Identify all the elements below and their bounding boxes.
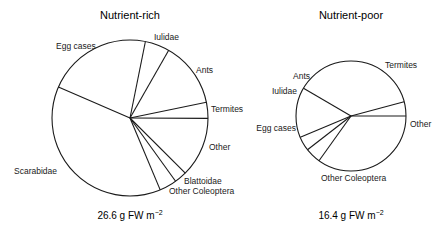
slice-label: Iulidae	[154, 32, 179, 42]
chart-title: Nutrient-poor	[319, 9, 384, 21]
chart-nutrient-poor: Nutrient-poor TermitesAntsIulidaeEgg cas…	[256, 9, 431, 221]
chart-nutrient-rich: Nutrient-rich Egg casesIulidaeAntsTermit…	[14, 9, 243, 221]
slice-label: Termites	[211, 104, 243, 114]
slice-label: Blattoidae	[184, 176, 222, 186]
slice-label: Other Coleoptera	[321, 173, 386, 183]
slice-label: Other	[410, 119, 431, 129]
slice-label: Ants	[293, 71, 310, 81]
pie-chart-figure: Nutrient-rich Egg casesIulidaeAntsTermit…	[0, 0, 443, 236]
slice-label: Ants	[196, 65, 213, 75]
total-biomass-label: 26.6 g FW m−2	[97, 209, 162, 221]
pie-slices	[296, 61, 406, 171]
pie-slices	[52, 40, 208, 196]
slice-label: Other	[209, 142, 230, 152]
total-biomass-label: 16.4 g FW m−2	[318, 209, 383, 221]
chart-title: Nutrient-rich	[100, 9, 160, 21]
slice-label: Iulidae	[272, 86, 297, 96]
slice-label: Termites	[385, 60, 417, 70]
slice-label: Other Coleoptera	[169, 186, 234, 196]
slice-label: Egg cases	[56, 41, 96, 51]
slice-label: Scarabidae	[14, 166, 57, 176]
slice-label: Egg cases	[256, 123, 296, 133]
